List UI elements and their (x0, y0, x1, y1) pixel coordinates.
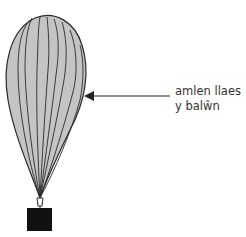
envelope-label-line1: amlen llaes (175, 84, 241, 99)
balloon-diagram: amlen llaes y balŵn (0, 0, 246, 237)
label-arrow-head (84, 91, 94, 101)
balloon-illustration (0, 0, 246, 237)
balloon-neck (37, 198, 43, 206)
payload-box (27, 208, 52, 231)
envelope-label-line2: y balŵn (175, 99, 241, 114)
envelope-label: amlen llaes y balŵn (175, 84, 241, 114)
